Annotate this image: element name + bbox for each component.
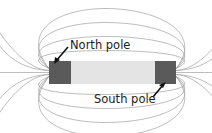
north-pole-block <box>49 61 71 84</box>
south-pole-label: South pole <box>94 92 156 106</box>
field-line <box>0 75 49 122</box>
magnet-diagram: North pole South pole <box>0 0 212 133</box>
south-pole-block <box>155 61 176 84</box>
field-line <box>0 24 49 71</box>
magnet-body <box>71 61 155 84</box>
north-pole-label: North pole <box>70 38 130 52</box>
